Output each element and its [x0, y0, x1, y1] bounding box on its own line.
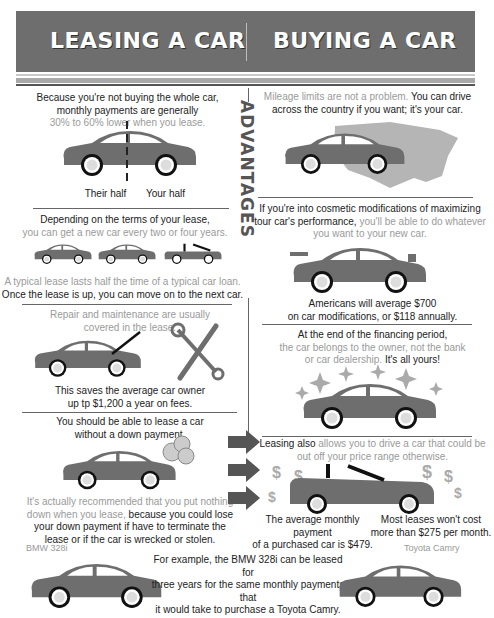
svg-text:$: $ — [268, 489, 276, 505]
down-payment-advice-text: It's actually recommended that you put n… — [15, 496, 245, 546]
camry-car-illustration — [336, 560, 466, 610]
header-banner: LEASING A CAR BUYING A CAR — [16, 11, 475, 72]
bmw-label: BMW 328i — [26, 543, 68, 553]
lease-payment-stat: Most leases won't cost more than $275 pe… — [368, 514, 494, 539]
sports-car-illustration — [290, 242, 440, 300]
divider-line — [258, 197, 473, 198]
smoking-car-illustration — [60, 436, 195, 494]
header-divider — [246, 23, 247, 61]
sparkling-car-illustration — [290, 362, 460, 432]
divider-line — [33, 208, 229, 209]
wagon-car-icon — [33, 242, 93, 268]
divider-line — [22, 412, 237, 413]
sedan-car-icon — [97, 242, 157, 268]
leasing-title: LEASING A CAR — [50, 28, 246, 53]
divider-line — [22, 304, 232, 305]
header-stripe — [16, 78, 475, 83]
divider-line — [248, 298, 249, 440]
their-half-label: Their half — [78, 188, 133, 201]
convertible-money-illustration: $ $ $ $ $ $ — [272, 460, 472, 512]
your-half-label: Your half — [138, 188, 193, 201]
modifications-text: If you're into cosmetic modifications of… — [250, 203, 490, 241]
modification-stats-text: Americans will average $700 on car modif… — [260, 298, 485, 323]
car-half-illustration — [60, 125, 200, 180]
example-text: For example, the BMW 328i can be leased … — [148, 554, 348, 617]
car-illustration — [282, 128, 412, 183]
wrench-screwdriver-icon — [172, 320, 224, 380]
header-stripe — [16, 84, 475, 86]
bmw-car-illustration — [28, 558, 168, 608]
divider-line — [262, 436, 472, 437]
ownership-text: At the end of the financing period, the … — [260, 329, 485, 367]
header-stripe — [16, 74, 475, 76]
repair-savings-text: This saves the average car owner up tp $… — [30, 385, 230, 410]
car-open-hood-illustration — [32, 336, 147, 384]
svg-text:$: $ — [444, 468, 453, 485]
divider-line — [262, 324, 472, 325]
camry-label: Toyota Camry — [404, 543, 460, 553]
svg-text:$: $ — [454, 485, 462, 501]
purchase-payment-stat: The average monthly payment of a purchas… — [250, 514, 375, 552]
svg-text:$: $ — [422, 462, 432, 482]
convertible-car-icon — [163, 242, 223, 268]
new-car-text: Depending on the terms of your lease, yo… — [5, 214, 245, 239]
svg-text:$: $ — [272, 464, 281, 481]
buying-title: BUYING A CAR — [273, 28, 457, 53]
mileage-text: Mileage limits are not a problem. You ca… — [250, 91, 485, 116]
lease-duration-text: A typical lease lasts half the time of a… — [0, 276, 245, 301]
